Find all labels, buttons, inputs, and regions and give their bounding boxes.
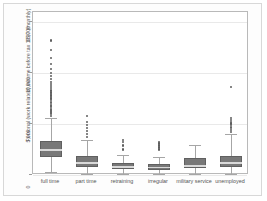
median-line	[112, 166, 134, 168]
boxplot-military-service	[177, 12, 213, 173]
outlier-point	[86, 124, 88, 126]
y-tick-mark	[29, 174, 32, 175]
outlier-point	[86, 136, 88, 138]
outlier-point	[50, 75, 52, 77]
y-tick-label: 15,000	[25, 21, 31, 47]
outlier-point	[158, 141, 160, 143]
outlier-point	[230, 86, 232, 88]
boxplot-unemployed	[213, 12, 249, 173]
median-line	[40, 149, 62, 151]
x-tick-label-unemployed: unemployed	[215, 178, 244, 184]
median-line	[220, 162, 242, 164]
whisker-cap-upper	[153, 157, 165, 158]
outlier-point	[230, 131, 232, 133]
outlier-point	[50, 115, 52, 117]
outlier-point	[122, 148, 124, 150]
outlier-point	[86, 121, 88, 123]
x-tick-label-military-service: military service	[176, 178, 212, 184]
median-line	[76, 162, 98, 164]
y-tick-label: 10,000	[25, 72, 31, 98]
median-line	[184, 165, 206, 167]
y-tick-label: 5,000	[25, 123, 31, 149]
outlier-point	[86, 127, 88, 129]
whisker-cap-lower	[45, 172, 57, 173]
plot-area	[32, 11, 248, 174]
x-tick-label-retraining: retraining	[111, 178, 133, 184]
boxplot-retraining	[105, 12, 141, 173]
outlier-point	[158, 148, 160, 150]
boxplot-part-time	[69, 12, 105, 173]
outlier-point	[50, 81, 52, 83]
whisker-cap-lower	[81, 174, 93, 175]
boxplot-irregular	[141, 12, 177, 173]
whisker-cap-lower	[117, 174, 129, 175]
outlier-point	[50, 89, 52, 91]
outlier-point	[50, 72, 52, 74]
outlier-point	[50, 49, 52, 51]
whisker-cap-upper	[189, 145, 201, 146]
figure-canvas: Personal (work related) income before ta…	[0, 0, 267, 201]
box-iqr	[220, 156, 242, 168]
box-iqr	[184, 158, 206, 169]
whisker-cap-upper	[225, 134, 237, 135]
whisker-cap-lower	[153, 174, 165, 175]
x-tick-label-full-time: full time	[41, 178, 60, 184]
outlier-point	[50, 78, 52, 80]
whisker-cap-lower	[225, 174, 237, 175]
whisker-cap-upper	[45, 118, 57, 119]
whisker-cap-lower	[189, 174, 201, 175]
outlier-point	[86, 133, 88, 135]
whisker-cap-upper	[81, 140, 93, 141]
outlier-point	[158, 144, 160, 146]
whisker-line	[231, 134, 232, 174]
outlier-point	[50, 68, 52, 70]
median-line	[148, 167, 170, 169]
outlier-point	[86, 115, 88, 117]
outlier-point	[86, 130, 88, 132]
whisker-cap-upper	[117, 155, 129, 156]
outlier-point	[50, 57, 52, 59]
outlier-point	[158, 146, 160, 148]
x-tick-label-irregular: irregular	[148, 178, 168, 184]
outlier-point	[122, 141, 124, 143]
gridline	[33, 175, 247, 176]
y-tick-label: 0	[25, 174, 31, 200]
boxplot-full-time	[33, 12, 69, 173]
outlier-point	[50, 39, 52, 41]
outlier-point	[50, 91, 52, 93]
outlier-point	[122, 144, 124, 146]
outlier-point	[50, 63, 52, 65]
x-tick-label-part-time: part time	[76, 178, 97, 184]
